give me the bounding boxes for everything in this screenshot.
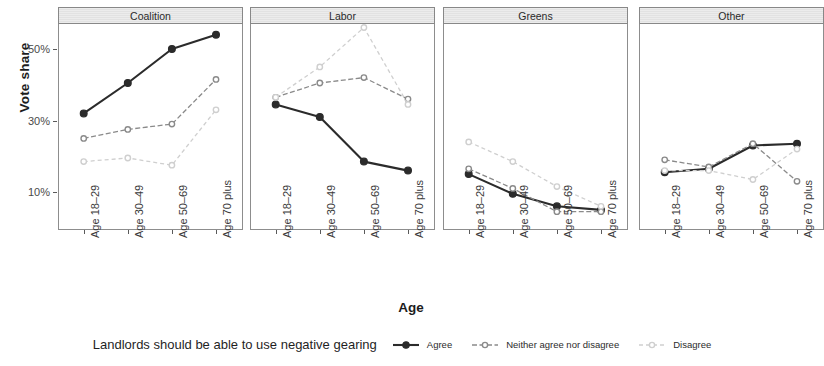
- x-tick-label: Age 50–69: [562, 185, 574, 238]
- series-line-agree: [84, 35, 216, 114]
- legend-item-agree[interactable]: Agree: [391, 339, 452, 351]
- legend-label: Agree: [427, 339, 452, 350]
- data-point: [80, 110, 87, 117]
- data-point: [794, 146, 799, 151]
- series-line-neither-agree-nor-disagree: [84, 79, 216, 138]
- data-point: [750, 141, 755, 146]
- legend-item-disagree[interactable]: Disagree: [637, 339, 711, 351]
- data-point: [272, 101, 279, 108]
- series-line-disagree: [276, 28, 408, 105]
- x-tick-mark: [320, 230, 321, 234]
- x-tick-mark: [601, 230, 602, 234]
- y-tick-mark: [53, 49, 57, 50]
- data-point: [361, 158, 368, 165]
- panel-plot-area: [443, 24, 628, 230]
- data-point: [662, 157, 667, 162]
- x-tick-label: Age 50–69: [369, 185, 381, 238]
- panel-plot-area: [58, 24, 243, 230]
- data-point: [361, 75, 366, 80]
- data-point: [405, 102, 410, 107]
- x-tick-label: Age 30–49: [518, 185, 530, 238]
- y-tick-label: 50%: [8, 43, 50, 55]
- series-line-disagree: [84, 110, 216, 165]
- legend-item-neither-agree-nor-disagree[interactable]: Neither agree nor disagree: [470, 339, 619, 351]
- series-canvas: [59, 24, 242, 229]
- x-tick-label: Age 30–49: [133, 185, 145, 238]
- legend-label: Neither agree nor disagree: [506, 339, 619, 350]
- x-tick-label: Age 70 plus: [221, 180, 233, 238]
- series-canvas: [251, 24, 434, 229]
- data-point: [213, 31, 220, 38]
- data-point: [794, 179, 799, 184]
- series-line-neither-agree-nor-disagree: [276, 78, 408, 100]
- series-line-agree: [276, 104, 408, 170]
- facet-panel-coalition: Coalition: [58, 7, 243, 230]
- data-point: [81, 159, 86, 164]
- legend-title: Landlords should be able to use negative…: [93, 337, 377, 352]
- x-tick-mark: [364, 230, 365, 234]
- x-tick-mark: [128, 230, 129, 234]
- x-tick-label: Age 18–29: [670, 185, 682, 238]
- data-point: [554, 184, 559, 189]
- x-tick-mark: [753, 230, 754, 234]
- legend-key-icon: [470, 339, 500, 351]
- y-tick-mark: [53, 121, 57, 122]
- x-tick-label: Age 18–29: [474, 185, 486, 238]
- panel-strip-label: Coalition: [58, 7, 243, 24]
- facet-panel-greens: Greens: [443, 7, 628, 230]
- facet-panel-other: Other: [639, 7, 824, 230]
- data-point: [405, 167, 412, 174]
- data-point: [317, 64, 322, 69]
- x-tick-mark: [469, 230, 470, 234]
- series-line-disagree: [469, 142, 601, 206]
- x-tick-label: Age 70 plus: [606, 180, 618, 238]
- legend-label: Disagree: [673, 339, 711, 350]
- data-point: [124, 80, 131, 87]
- x-tick-mark: [557, 230, 558, 234]
- panel-plot-area: [250, 24, 435, 230]
- series-canvas: [640, 24, 823, 229]
- data-point: [125, 127, 130, 132]
- legend-key-icon: [637, 339, 667, 351]
- data-point: [554, 209, 559, 214]
- x-tick-mark: [797, 230, 798, 234]
- x-tick-label: Age 70 plus: [802, 180, 814, 238]
- data-point: [662, 168, 667, 173]
- data-point: [125, 155, 130, 160]
- x-tick-label: Age 50–69: [758, 185, 770, 238]
- x-tick-mark: [665, 230, 666, 234]
- y-tick-label: 10%: [8, 186, 50, 198]
- legend-key-icon: [391, 339, 421, 351]
- data-point: [213, 77, 218, 82]
- series-line-agree: [665, 144, 797, 173]
- x-tick-label: Age 30–49: [325, 185, 337, 238]
- series-canvas: [444, 24, 627, 229]
- data-point: [317, 80, 322, 85]
- x-tick-mark: [276, 230, 277, 234]
- data-point: [466, 166, 471, 171]
- panel-strip-label: Labor: [250, 7, 435, 24]
- data-point: [81, 136, 86, 141]
- data-point: [316, 114, 323, 121]
- panel-strip-label: Greens: [443, 7, 628, 24]
- x-tick-label: Age 18–29: [281, 185, 293, 238]
- data-point: [169, 121, 174, 126]
- data-point: [213, 107, 218, 112]
- facet-panel-labor: Labor: [250, 7, 435, 230]
- data-point: [750, 177, 755, 182]
- x-tick-mark: [513, 230, 514, 234]
- x-tick-mark: [84, 230, 85, 234]
- series-line-disagree: [665, 149, 797, 179]
- data-point: [598, 204, 603, 209]
- x-tick-mark: [408, 230, 409, 234]
- x-tick-mark: [216, 230, 217, 234]
- panel-strip-label: Other: [639, 7, 824, 24]
- x-tick-label: Age 50–69: [177, 185, 189, 238]
- data-point: [510, 186, 515, 191]
- data-point: [169, 46, 176, 53]
- data-point: [466, 139, 471, 144]
- x-axis-title: Age: [0, 300, 822, 315]
- y-tick-mark: [53, 192, 57, 193]
- series-line-agree: [469, 174, 601, 210]
